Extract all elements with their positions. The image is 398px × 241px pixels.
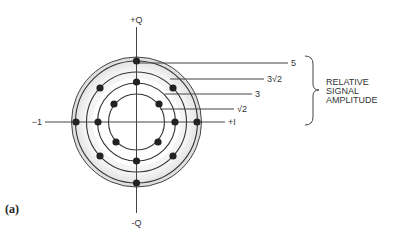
curly-brace xyxy=(305,56,319,125)
ring-label-3: 3 xyxy=(255,89,260,99)
neg-q-label: -Q xyxy=(132,218,142,228)
ring-label-sqrt2: √2 xyxy=(237,104,247,114)
figure-caption: (a) xyxy=(5,202,19,216)
pos-q-label: +Q xyxy=(130,15,142,25)
constellation-diagram: +Q -Q −1 +I 5 3√2 3 √2 RELATIVE SIGNAL A… xyxy=(0,0,398,241)
brace-label-line3: AMPLITUDE xyxy=(326,95,378,105)
ring-label-5: 5 xyxy=(291,58,296,68)
neg-i-label: −1 xyxy=(32,117,42,127)
ring-label-3sqrt2: 3√2 xyxy=(267,74,282,84)
pos-i-label: +I xyxy=(228,117,236,127)
